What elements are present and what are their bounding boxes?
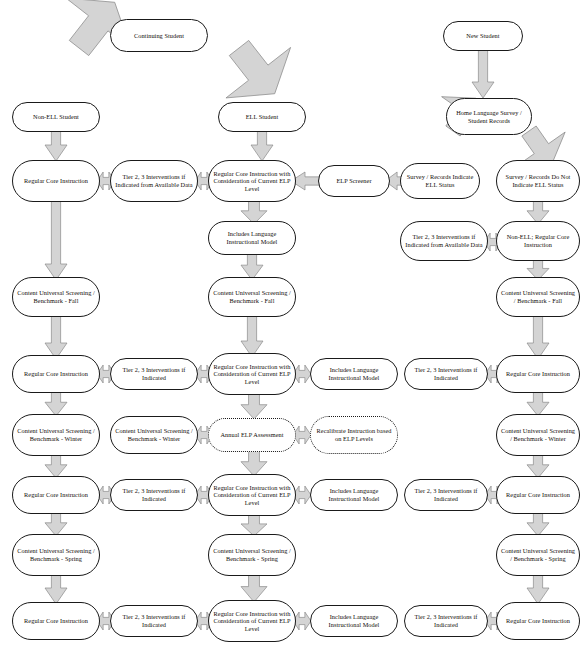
node-recalibrate[interactable]: Recalibrate Instruction based on ELP Lev… [310,416,398,454]
node-new-student[interactable]: New Student [443,21,523,51]
arrow-a-r2-c3-down [241,393,267,419]
node-rci-r4-c1[interactable]: Regular Core Instruction [12,602,100,640]
node-tier-r4-c2[interactable]: Tier 2, 3 Interventions if Indicated [110,605,198,637]
node-elp-screener[interactable]: ELP Screener [318,165,390,197]
arrow-a-nonell-down [45,131,67,161]
node-non-ell-regular[interactable]: Non-ELL; Regular Core Instruction [496,221,580,261]
node-annual-elp[interactable]: Annual ELP Assessment [208,418,296,452]
node-label: Content Universal Screening / Benchmark … [500,289,576,304]
node-label: Regular Core Instruction with Considerat… [212,484,292,507]
node-rcielp-r3-c3[interactable]: Regular Core Instruction with Considerat… [208,474,296,516]
node-rci-r3-c1[interactable]: Regular Core Instruction [12,476,100,514]
node-label: Continuing Student [114,32,204,40]
node-rci-r2-c6[interactable]: Regular Core Instruction [496,355,580,393]
node-content-fall-c3[interactable]: Content Universal Screening / Benchmark … [208,277,296,317]
arrow-a-win-c1-down [45,454,67,478]
arrow-a-r3-c6-down [527,512,549,536]
node-label: Non-ELL; Regular Core Instruction [500,233,576,248]
node-tier-r2-c5[interactable]: Tier 2, 3 Interventions if Indicated [404,358,488,390]
arrow-a-c1-long-down [45,200,67,280]
node-label: Regular Core Instruction with Considerat… [212,170,292,193]
node-tier-r2-c2[interactable]: Tier 2, 3 Interventions if Indicated [110,358,198,390]
node-content-spring-c6[interactable]: Content Universal Screening / Benchmark … [496,534,580,576]
node-rcielp-r4-c3[interactable]: Regular Core Instruction with Considerat… [208,600,296,642]
node-content-spring-c1[interactable]: Content Universal Screening / Benchmark … [12,534,100,576]
node-label: Regular Core Instruction [500,617,576,625]
arrow-a-fall-c3-down [241,315,263,357]
node-label: Content Universal Screening / Benchmark … [114,427,194,442]
node-rcielp-r2-c3[interactable]: Regular Core Instruction with Considerat… [208,353,296,395]
node-tier-r3-c5[interactable]: Tier 2, 3 Interventions if Indicated [404,479,488,511]
node-label: ELL Student [222,113,302,121]
node-tier-r3-c2[interactable]: Tier 2, 3 Interventions if Indicated [110,479,198,511]
node-label: Regular Core Instruction with Considerat… [212,610,292,633]
node-ell-student[interactable]: ELL Student [218,102,306,132]
node-home-language-survey[interactable]: Home Language Survey / Student Records [446,98,532,135]
node-label: Includes Language Instructional Model [314,613,394,628]
node-label: Home Language Survey / Student Records [450,109,528,124]
node-rci-r4-c6[interactable]: Regular Core Instruction [496,602,580,640]
arrow-a-r2-c1-down [45,391,67,416]
node-includes-lang-r3[interactable]: Includes Language Instructional Model [310,479,398,511]
node-label: Content Universal Screening / Benchmark … [212,289,292,304]
node-label: Regular Core Instruction [500,491,576,499]
node-content-winter-c2[interactable]: Content Universal Screening / Benchmark … [110,416,198,454]
node-survey-not-indicate[interactable]: Survey / Records Do Not Indicate ELL Sta… [496,160,580,202]
arrow-a-fall-c5-down [527,315,549,359]
arrow-a-r2-c6-down [527,391,549,416]
node-label: Content Universal Screening / Benchmark … [16,427,96,442]
node-content-fall-c5[interactable]: Content Universal Screening / Benchmark … [496,277,580,317]
node-tier-r1b-right[interactable]: Tier 2, 3 Interventions if Indicated fro… [400,221,488,261]
arrow-a-win-c6-down [527,454,549,478]
node-label: Tier 2, 3 Interventions if Indicated fro… [114,173,194,188]
node-label: Content Universal Screening / Benchmark … [212,547,292,562]
flowchart-canvas: Continuing StudentNew StudentNon-ELL Stu… [0,0,587,661]
node-non-ell-student[interactable]: Non-ELL Student [12,102,100,132]
node-label: Content Universal Screening / Benchmark … [16,547,96,562]
node-label: Tier 2, 3 Interventions if Indicated [114,613,194,628]
node-tier-r4-c5[interactable]: Tier 2, 3 Interventions if Indicated [404,605,488,637]
node-rci-r1-c1[interactable]: Regular Core Instruction [12,160,100,202]
node-content-winter-c6[interactable]: Content Universal Screening / Benchmark … [496,414,580,456]
node-tier-r1-c2[interactable]: Tier 2, 3 Interventions if Indicated fro… [110,160,198,202]
node-label: Content Universal Screening / Benchmark … [500,547,576,562]
node-content-fall-c1[interactable]: Content Universal Screening / Benchmark … [12,277,100,317]
node-label: Survey / Records Do Not Indicate ELL Sta… [500,173,576,188]
arrow-a-spr-c3-down [241,574,267,602]
node-label: Regular Core Instruction [500,370,576,378]
node-includes-lang-r1[interactable]: Includes Language Instructional Model [208,221,296,255]
node-label: Includes Language Instructional Model [314,366,394,381]
arrow-a-fall-c1-down [45,315,67,359]
node-includes-lang-r2[interactable]: Includes Language Instructional Model [310,358,398,390]
node-includes-lang-r4[interactable]: Includes Language Instructional Model [310,605,398,637]
node-label: Tier 2, 3 Interventions if Indicated [408,366,484,381]
node-survey-indicate[interactable]: Survey / Records Indicate ELL Status [400,163,480,199]
node-label: Regular Core Instruction with Considerat… [212,363,292,386]
node-content-winter-c1[interactable]: Content Universal Screening / Benchmark … [12,414,100,456]
arrow-a-r3-c3-down [241,514,267,536]
node-rci-r3-c6[interactable]: Regular Core Instruction [496,476,580,514]
node-label: Survey / Records Indicate ELL Status [404,173,476,188]
node-label: Regular Core Instruction [16,177,96,185]
arrow-a-r3-c1-down [45,512,67,536]
node-label: Annual ELP Assessment [212,431,292,439]
node-label: Tier 2, 3 Interventions if Indicated [408,613,484,628]
node-label: Tier 2, 3 Interventions if Indicated fro… [404,233,484,248]
node-label: Tier 2, 3 Interventions if Indicated [114,487,194,502]
node-label: Includes Language Instructional Model [314,487,394,502]
node-label: Regular Core Instruction [16,617,96,625]
node-rcielp-r1-c3[interactable]: Regular Core Instruction with Considerat… [208,160,296,202]
node-label: Non-ELL Student [16,113,96,121]
arrow-a-win-c3-down [241,450,267,476]
arrow-a-new-down [472,50,494,98]
node-continuing-student[interactable]: Continuing Student [110,19,208,52]
node-label: Regular Core Instruction [16,491,96,499]
node-rci-r2-c1[interactable]: Regular Core Instruction [12,355,100,393]
node-label: Regular Core Instruction [16,370,96,378]
node-label: Content Universal Screening / Benchmark … [500,427,576,442]
node-label: Tier 2, 3 Interventions if Indicated [114,366,194,381]
node-content-spring-c3[interactable]: Content Universal Screening / Benchmark … [208,534,296,576]
arrow-a-spr-c6-down [527,574,549,604]
node-label: Tier 2, 3 Interventions if Indicated [408,487,484,502]
node-label: New Student [447,32,519,40]
